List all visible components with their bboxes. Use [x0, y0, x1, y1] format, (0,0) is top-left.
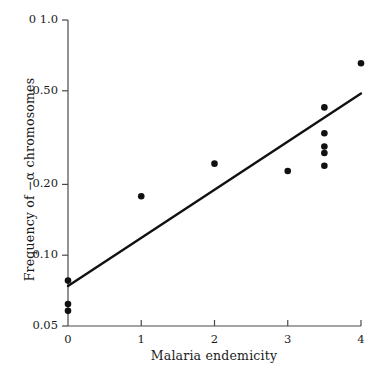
data-point [321, 143, 328, 150]
x-tick-label: 0 [64, 334, 71, 346]
x-axis-title: Malaria endemicity [68, 348, 360, 363]
data-point [65, 301, 72, 308]
data-point [321, 150, 328, 157]
x-tick-label: 3 [284, 334, 291, 346]
data-point [284, 168, 291, 175]
x-tick-label: 4 [357, 334, 364, 346]
y-axis-title: Frequency of −α chromosomes [22, 55, 37, 305]
x-axis-tick-marks [141, 320, 361, 326]
data-point [138, 193, 145, 200]
y-tick-label: 0.05 [0, 320, 58, 332]
data-points [65, 60, 365, 314]
x-tick-label: 1 [138, 334, 145, 346]
regression-line [68, 93, 361, 285]
data-point [321, 162, 328, 169]
y-tick-label: 0 1.0 [0, 14, 58, 26]
data-point [321, 104, 328, 111]
data-point [358, 60, 365, 67]
axes [68, 20, 361, 326]
data-point [211, 160, 218, 167]
data-point [65, 308, 72, 315]
regression-line-segment [68, 93, 361, 285]
chart-figure: 0 1.00.500.200.100.05 01234 Frequency of… [0, 0, 376, 372]
data-point [321, 130, 328, 137]
x-tick-label: 2 [211, 334, 218, 346]
data-point [65, 277, 72, 284]
